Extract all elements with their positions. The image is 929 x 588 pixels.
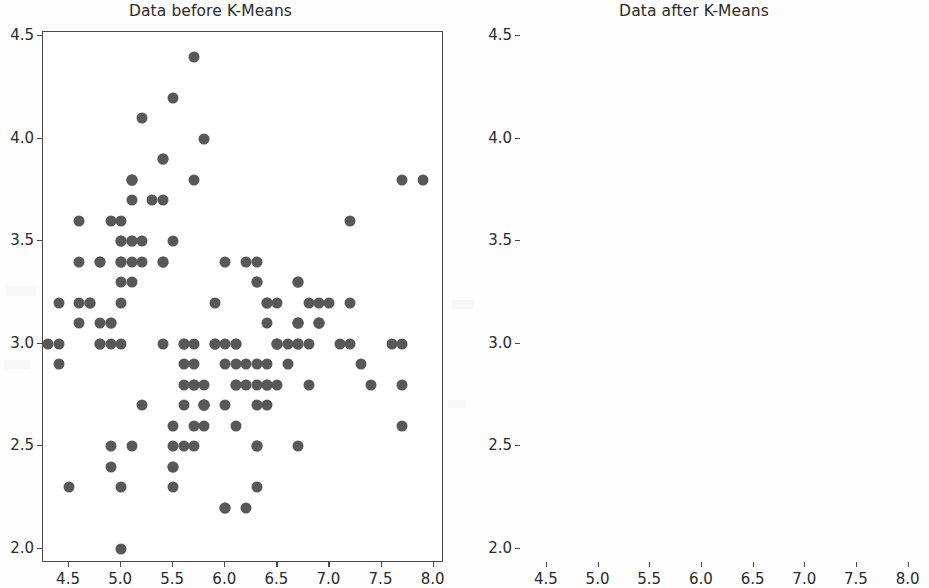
data-point	[251, 400, 262, 411]
y-axis-tick	[515, 445, 520, 446]
data-point	[418, 174, 429, 185]
panel-title-before: Data before K-Means	[0, 2, 443, 20]
data-point	[178, 338, 189, 349]
x-axis-tick	[328, 562, 329, 567]
data-point	[397, 420, 408, 431]
data-point	[74, 215, 85, 226]
data-point	[43, 338, 54, 349]
data-point	[126, 441, 137, 452]
data-point	[230, 359, 241, 370]
data-point	[220, 359, 231, 370]
y-axis-label: 3.0	[472, 334, 512, 352]
y-axis-label: 2.5	[0, 436, 34, 454]
data-point	[136, 113, 147, 124]
plot-area-before	[43, 32, 442, 561]
data-point	[178, 379, 189, 390]
data-point	[397, 174, 408, 185]
data-point	[189, 51, 200, 62]
data-point	[386, 338, 397, 349]
panel-after-kmeans: Data after K-Means 4.55.05.56.06.57.07.5…	[465, 0, 929, 588]
data-point	[293, 318, 304, 329]
data-point	[230, 379, 241, 390]
x-axis-tick	[224, 562, 225, 567]
x-axis-tick	[804, 562, 805, 567]
x-axis-label: 6.0	[689, 570, 713, 588]
data-point	[324, 297, 335, 308]
data-point	[293, 277, 304, 288]
data-point	[366, 379, 377, 390]
data-point	[189, 441, 200, 452]
data-point	[84, 297, 95, 308]
x-axis-tick	[68, 562, 69, 567]
data-point	[334, 338, 345, 349]
panel-title-after: Data after K-Means	[462, 2, 926, 20]
data-point	[136, 400, 147, 411]
data-point	[105, 338, 116, 349]
data-point	[157, 195, 168, 206]
y-axis-label: 4.5	[0, 26, 34, 44]
data-point	[272, 297, 283, 308]
data-point	[251, 482, 262, 493]
data-point	[105, 318, 116, 329]
data-point	[147, 195, 158, 206]
x-axis-tick	[546, 562, 547, 567]
data-point	[53, 338, 64, 349]
y-axis-label: 3.5	[0, 231, 34, 249]
data-point	[345, 338, 356, 349]
data-point	[241, 256, 252, 267]
x-axis-tick	[753, 562, 754, 567]
x-axis-label: 4.5	[534, 570, 558, 588]
data-point	[168, 92, 179, 103]
data-point	[126, 174, 137, 185]
data-point	[272, 338, 283, 349]
x-axis-tick	[908, 562, 909, 567]
data-point	[157, 256, 168, 267]
data-point	[178, 441, 189, 452]
y-axis-tick	[515, 240, 520, 241]
data-point	[397, 379, 408, 390]
data-point	[220, 256, 231, 267]
x-axis-tick	[172, 562, 173, 567]
data-point	[53, 297, 64, 308]
data-point	[314, 297, 325, 308]
kmeans-figure: Data before K-Means 4.55.05.56.06.57.07.…	[0, 0, 929, 588]
x-axis-label: 7.0	[792, 570, 816, 588]
data-point	[116, 297, 127, 308]
data-point	[105, 215, 116, 226]
y-axis-label: 3.5	[472, 231, 512, 249]
data-point	[95, 338, 106, 349]
data-point	[345, 297, 356, 308]
data-point	[251, 359, 262, 370]
x-axis-tick	[856, 562, 857, 567]
x-axis-tick	[120, 562, 121, 567]
panel-before-kmeans: Data before K-Means 4.55.05.56.06.57.07.…	[0, 0, 465, 588]
x-axis-tick	[649, 562, 650, 567]
x-axis-label: 6.5	[741, 570, 765, 588]
data-point	[261, 379, 272, 390]
data-point	[355, 359, 366, 370]
data-point	[272, 379, 283, 390]
data-point	[168, 441, 179, 452]
data-point	[199, 379, 210, 390]
data-point	[105, 461, 116, 472]
data-point	[116, 277, 127, 288]
data-point	[282, 359, 293, 370]
data-point	[293, 441, 304, 452]
y-axis-label: 4.0	[0, 129, 34, 147]
data-point	[303, 297, 314, 308]
data-point	[136, 236, 147, 247]
data-point	[116, 215, 127, 226]
y-axis-label: 2.0	[0, 539, 34, 557]
data-point	[64, 482, 75, 493]
data-point	[168, 482, 179, 493]
data-point	[293, 338, 304, 349]
x-axis-tick	[701, 562, 702, 567]
data-point	[209, 338, 220, 349]
data-point	[199, 400, 210, 411]
y-axis-label: 4.0	[472, 129, 512, 147]
data-point	[282, 338, 293, 349]
data-point	[189, 379, 200, 390]
data-point	[397, 338, 408, 349]
axes-before	[42, 31, 443, 562]
x-axis-label: 8.0	[421, 570, 445, 588]
